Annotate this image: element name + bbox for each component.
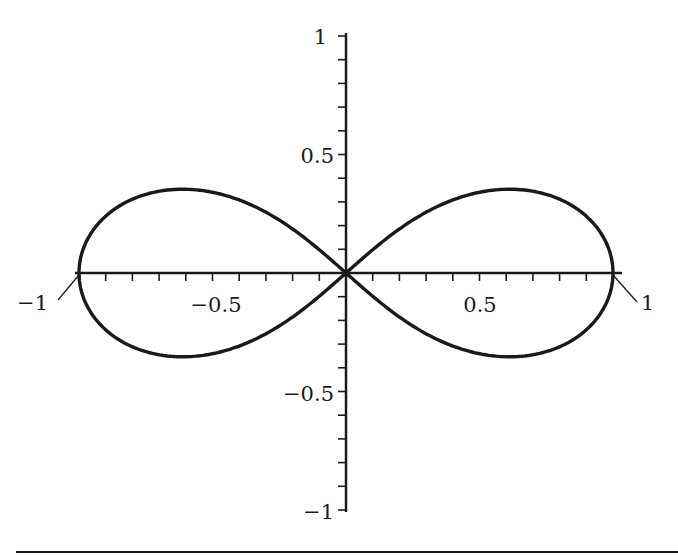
y-tick-label-neg-1: −1 [303,500,334,524]
y-tick-label-1: 1 [314,25,327,49]
y-tick-label-0.5: 0.5 [301,144,334,168]
y-tick-label-neg-0.5: −0.5 [283,382,334,406]
x-tick-label-0.5: 0.5 [463,293,496,317]
lemniscate-plot: 1 0.5 −0.5 −1 −0.5 0.5 −1 1 [0,0,678,556]
x-tick-label-neg-0.5: −0.5 [191,293,242,317]
x-callout-label-neg-1: −1 [17,291,48,315]
left-callout-leader [58,275,79,300]
x-callout-label-1: 1 [641,291,654,315]
right-callout-leader [613,275,637,302]
